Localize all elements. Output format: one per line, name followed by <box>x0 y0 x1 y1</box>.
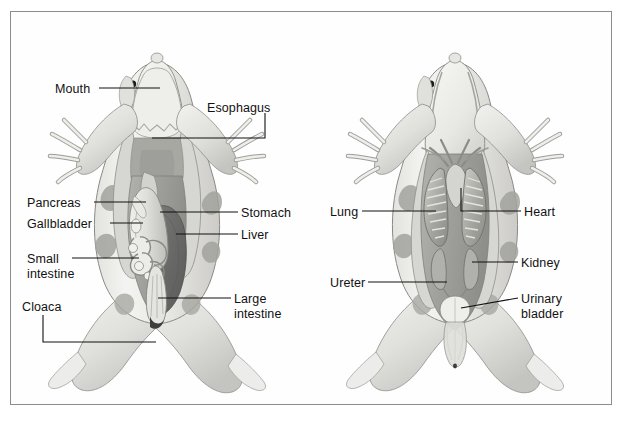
label-large-intestine: Large intestine <box>234 292 281 321</box>
label-urinary-bladder: Urinary bladder <box>521 292 563 321</box>
label-pancreas: Pancreas <box>27 196 81 211</box>
label-small-intestine: Small intestine <box>27 252 74 281</box>
label-kidney: Kidney <box>521 256 560 271</box>
label-lung: Lung <box>330 205 358 220</box>
right-frog-figure <box>346 53 563 393</box>
label-esophagus: Esophagus <box>207 101 270 116</box>
label-ureter: Ureter <box>330 276 365 291</box>
label-mouth: Mouth <box>55 82 90 97</box>
label-gallbladder: Gallbladder <box>27 217 92 232</box>
label-stomach: Stomach <box>241 206 291 221</box>
figure-canvas: Mouth Esophagus Pancreas Gallbladder Sto… <box>0 0 623 423</box>
label-heart: Heart <box>524 205 555 220</box>
label-cloaca: Cloaca <box>22 300 62 315</box>
label-liver: Liver <box>241 228 269 243</box>
